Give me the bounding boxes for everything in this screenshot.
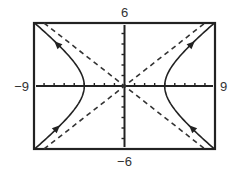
- xmax-label: 9: [220, 79, 227, 94]
- ymax-label: 6: [121, 5, 128, 20]
- hyperbola-chart: 6 −6 −9 9: [0, 0, 234, 176]
- ymin-label: −6: [117, 154, 132, 169]
- xmin-label: −9: [14, 79, 29, 94]
